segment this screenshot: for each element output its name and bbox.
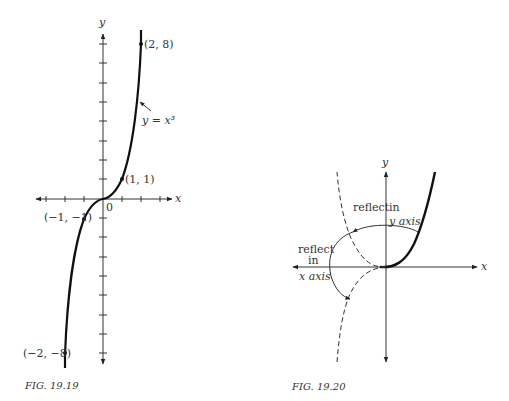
figure-caption: FIG. 19.20 — [291, 381, 346, 392]
point-label: (1, 1) — [125, 173, 155, 186]
reflection-y-axis-curve — [337, 172, 386, 267]
point-2-8 — [139, 42, 143, 46]
curve-label: y = x³ — [141, 114, 175, 127]
annotation-reflect-y: y axis — [388, 215, 421, 228]
annotation-reflect-x: in — [308, 254, 319, 267]
reflection-x-axis-curve — [337, 267, 386, 362]
annotation-reflect-x: x axis — [299, 270, 331, 283]
annotation-reflect-y: reflect — [353, 201, 390, 214]
fig-19-20: y x reflect in y axis reflect in x axis … — [291, 156, 488, 392]
point-label: (−2, −8) — [23, 347, 71, 360]
origin-label: 0 — [106, 201, 113, 214]
x-axis-label: x — [481, 260, 488, 273]
point-1-1 — [120, 177, 124, 181]
figure-caption: FIG. 19.19 — [24, 380, 79, 391]
fig-19-19: y x 0 (2, 8) (1, 1) (−1, −1) (−2, −8) y … — [23, 16, 182, 391]
y-axis-label: y — [98, 16, 106, 29]
y-axis-label: y — [381, 156, 389, 169]
curve-pointer — [140, 102, 151, 111]
annotation-reflect-y: in — [389, 201, 400, 214]
point-label: (−1, −1) — [44, 211, 92, 224]
point-label: (2, 8) — [144, 38, 174, 51]
x-axis-label: x — [175, 192, 182, 205]
figure-canvas: y x 0 (2, 8) (1, 1) (−1, −1) (−2, −8) y … — [0, 0, 509, 401]
